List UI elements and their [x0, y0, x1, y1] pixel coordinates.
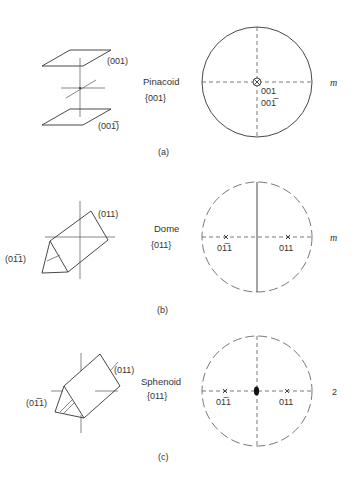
- pole-circle-x-icon: [253, 78, 261, 86]
- form-index: {011}: [147, 391, 167, 401]
- inner-edge: [63, 402, 75, 414]
- face-label-00-1: (001̅): [98, 121, 119, 131]
- pole-label-011: 011: [279, 243, 293, 253]
- pole-label-001: 001: [261, 86, 276, 96]
- form-name: Sphenoid: [141, 376, 181, 387]
- origin-dot: [79, 87, 81, 89]
- face-label-001: (001): [107, 56, 128, 66]
- form-name: Dome: [154, 223, 179, 234]
- inner-edge: [47, 255, 60, 261]
- pole-label-0-11: 01̅1: [217, 243, 232, 253]
- caption: (b): [157, 305, 168, 315]
- stereographic-projection: 001 001̅: [202, 27, 312, 137]
- pole-label-00-1: 001̅: [261, 98, 279, 108]
- symmetry-symbol: m: [330, 232, 337, 243]
- crystal-forms-diagram: (001) (001̅) Pinacoid {001} (a) 001 001̅…: [0, 0, 354, 486]
- pinacoid-drawing: [42, 50, 111, 125]
- face-011: [64, 354, 120, 418]
- axis-a: [66, 80, 96, 98]
- stereographic-projection: 01̅1 011: [202, 336, 312, 446]
- panel-b: (011) (01̅1) Dome {011} (b) 01̅1 011 m: [5, 182, 337, 315]
- face-label-011: (011): [98, 209, 118, 219]
- face-label-011: (011): [114, 365, 134, 375]
- face-001: [42, 50, 111, 66]
- panel-a: (001) (001̅) Pinacoid {001} (a) 001 001̅…: [42, 27, 337, 157]
- two-fold-axis-icon: [254, 387, 259, 396]
- symmetry-symbol: 2: [332, 387, 337, 397]
- caption: (c): [158, 452, 169, 462]
- symmetry-symbol: m: [330, 77, 337, 88]
- panel-c: (011) (01̅1) Sphenoid {011} (c) 01̅1 011…: [26, 336, 337, 462]
- pole-label-011: 011: [279, 397, 293, 407]
- sphenoid-drawing: [51, 353, 120, 433]
- face-label-0-11: (01̅1): [26, 398, 47, 408]
- form-index: {001}: [145, 93, 166, 103]
- face-011: [50, 211, 108, 272]
- caption: (a): [158, 147, 169, 157]
- face-label-0-11: (01̅1): [5, 254, 26, 264]
- pole-label-0-11: 01̅1: [216, 397, 231, 407]
- form-name: Pinacoid: [143, 76, 179, 87]
- form-index: {011}: [151, 240, 171, 250]
- stereographic-projection: 01̅1 011: [202, 182, 312, 292]
